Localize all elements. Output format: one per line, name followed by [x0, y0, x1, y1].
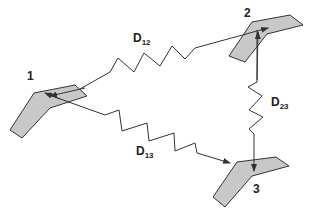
diagram-canvas: 1 2 3 D12 D23 D13: [0, 0, 316, 220]
node-1-shape: [10, 85, 87, 138]
node-3-shape: [213, 157, 289, 207]
node-3-label: 3: [253, 182, 260, 196]
node-2-label: 2: [244, 6, 251, 20]
node-2-shape: [229, 15, 303, 62]
edge-d23-label: D23: [271, 95, 289, 111]
edge-d13-label: D13: [136, 144, 154, 160]
edge-d12-label: D12: [133, 31, 151, 47]
node-1-label: 1: [27, 69, 34, 83]
